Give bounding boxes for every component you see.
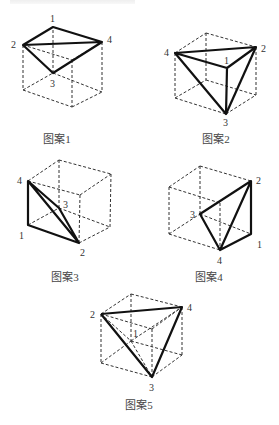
vertex-label-1: 1 — [257, 239, 262, 250]
vertex-label-3: 3 — [223, 117, 228, 128]
vertex-label-1: 1 — [133, 328, 138, 339]
vertex-label-2: 2 — [90, 309, 95, 320]
vertex-label-4: 4 — [17, 175, 22, 186]
vertex-label-3: 3 — [63, 199, 68, 210]
tetrahedron-edges — [175, 47, 256, 114]
vertex-label-3: 3 — [149, 382, 154, 393]
figure-5-caption: 图案5 — [109, 396, 169, 412]
tetrahedron-edges — [23, 27, 102, 73]
tetrahedron-edges — [200, 181, 251, 250]
figure-4-caption: 图案4 — [179, 268, 239, 284]
vertex-label-1: 1 — [19, 230, 24, 241]
vertex-label-4: 4 — [164, 47, 169, 58]
figure-5: 2 4 1 3 — [90, 294, 192, 393]
vertex-label-2: 2 — [80, 247, 85, 258]
figure-4: 2 3 1 4 — [169, 166, 262, 266]
vertex-label-4: 4 — [217, 255, 222, 266]
figure-1: 1 2 3 4 — [11, 13, 112, 107]
figure-1-caption: 图案1 — [27, 130, 87, 146]
vertex-label-1: 1 — [50, 13, 55, 24]
figure-2: 4 2 1 3 — [164, 33, 266, 128]
vertex-label-3: 3 — [190, 209, 195, 220]
figure-2-caption: 图案2 — [186, 130, 246, 146]
figure-3-caption: 图案3 — [35, 268, 95, 284]
vertex-label-2: 2 — [11, 39, 16, 50]
tetrahedron-edges — [28, 181, 79, 243]
vertex-label-1: 1 — [224, 55, 229, 66]
cube-diagrams: 1 2 3 4 4 2 1 3 — [0, 0, 279, 425]
vertex-label-3: 3 — [50, 78, 55, 89]
vertex-label-2: 2 — [256, 175, 261, 186]
vertex-label-4: 4 — [107, 34, 112, 45]
figure-3: 4 1 3 2 — [17, 160, 111, 258]
vertex-label-4: 4 — [187, 302, 192, 313]
vertex-label-2: 2 — [261, 43, 266, 54]
